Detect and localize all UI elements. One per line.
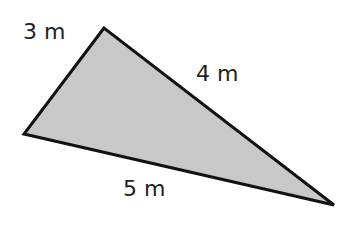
- side-label-5m: 5 m: [123, 178, 165, 200]
- side-label-4m: 4 m: [196, 63, 238, 85]
- triangle-diagram: 3 m 4 m 5 m: [0, 0, 339, 236]
- triangle-shape: [24, 28, 334, 205]
- side-label-3m: 3 m: [23, 21, 65, 43]
